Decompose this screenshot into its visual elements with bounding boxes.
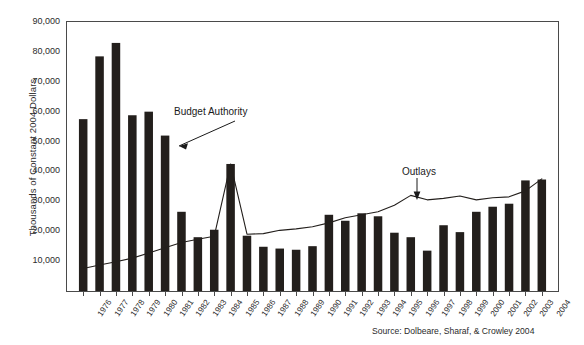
x-tick-1976: 1976 bbox=[96, 298, 114, 318]
x-tickmark-2002 bbox=[509, 292, 510, 296]
x-tickmark-2001 bbox=[493, 292, 494, 296]
bar-1988 bbox=[275, 249, 284, 291]
bar-2001 bbox=[488, 207, 497, 291]
bar-1981 bbox=[161, 136, 170, 291]
bar-1993 bbox=[357, 213, 366, 291]
bar-2003 bbox=[521, 180, 530, 291]
x-tick-2000: 2000 bbox=[489, 298, 507, 318]
x-tickmark-1980 bbox=[149, 292, 150, 296]
x-tickmark-1983 bbox=[198, 292, 199, 296]
x-tickmark-1992 bbox=[345, 292, 346, 296]
bar-1998 bbox=[439, 225, 448, 291]
x-tick-1995: 1995 bbox=[407, 298, 425, 318]
x-tickmark-1997 bbox=[427, 292, 428, 296]
x-tickmark-1977 bbox=[100, 292, 101, 296]
x-tickmark-1990 bbox=[313, 292, 314, 296]
bar-1999 bbox=[456, 232, 465, 291]
x-tick-1999: 1999 bbox=[473, 298, 491, 318]
chart-svg bbox=[67, 22, 558, 291]
x-tick-1977: 1977 bbox=[112, 298, 130, 318]
x-tick-2001: 2001 bbox=[505, 298, 523, 318]
y-tick-10000: 10,000 bbox=[14, 256, 60, 265]
plot-area bbox=[66, 21, 559, 292]
x-tickmark-2003 bbox=[525, 292, 526, 296]
x-tick-1986: 1986 bbox=[260, 298, 278, 318]
x-tick-1994: 1994 bbox=[391, 298, 409, 318]
y-tick-70000: 70,000 bbox=[14, 77, 60, 86]
x-tick-1993: 1993 bbox=[374, 298, 392, 318]
x-tickmark-1989 bbox=[296, 292, 297, 296]
x-tickmark-1987 bbox=[263, 292, 264, 296]
source-note: Source: Dolbeare, Sharaf, & Crowley 2004 bbox=[372, 326, 534, 336]
x-tick-1980: 1980 bbox=[161, 298, 179, 318]
x-tickmark-1999 bbox=[460, 292, 461, 296]
x-tick-1981: 1981 bbox=[178, 298, 196, 318]
x-tick-1987: 1987 bbox=[276, 298, 294, 318]
bar-1986 bbox=[243, 236, 252, 291]
x-tick-1996: 1996 bbox=[424, 298, 442, 318]
x-tickmark-1985 bbox=[231, 292, 232, 296]
annotation-budget-authority: Budget Authority bbox=[174, 106, 247, 117]
bar-1989 bbox=[292, 250, 301, 291]
x-tick-1998: 1998 bbox=[456, 298, 474, 318]
x-tick-1983: 1983 bbox=[211, 298, 229, 318]
x-tick-1984: 1984 bbox=[227, 298, 245, 318]
x-tick-2003: 2003 bbox=[538, 298, 556, 318]
y-tick-20000: 20,000 bbox=[14, 226, 60, 235]
bar-1983 bbox=[194, 237, 203, 291]
bar-1990 bbox=[308, 246, 317, 291]
y-tick-60000: 60,000 bbox=[14, 107, 60, 116]
y-tick-30000: 30,000 bbox=[14, 196, 60, 205]
x-tickmark-1993 bbox=[362, 292, 363, 296]
y-tick-40000: 40,000 bbox=[14, 166, 60, 175]
y-tick-50000: 50,000 bbox=[14, 137, 60, 146]
x-tick-1988: 1988 bbox=[293, 298, 311, 318]
bar-1984 bbox=[210, 230, 219, 291]
x-tickmark-1991 bbox=[329, 292, 330, 296]
x-tickmark-1988 bbox=[280, 292, 281, 296]
x-tickmark-1978 bbox=[116, 292, 117, 296]
x-tickmark-1984 bbox=[214, 292, 215, 296]
bar-1995 bbox=[390, 233, 399, 291]
chart-container: Thousands of Constant 2004 Dollars 90,00… bbox=[0, 0, 584, 345]
x-tickmark-2000 bbox=[476, 292, 477, 296]
x-tick-1989: 1989 bbox=[309, 298, 327, 318]
x-tickmark-1995 bbox=[394, 292, 395, 296]
bar-1994 bbox=[374, 216, 383, 291]
bar-1996 bbox=[407, 237, 416, 291]
x-tick-1991: 1991 bbox=[342, 298, 360, 318]
bar-1976 bbox=[79, 119, 88, 291]
bar-1985 bbox=[226, 164, 235, 291]
y-tick-80000: 80,000 bbox=[14, 47, 60, 56]
bar-2004 bbox=[538, 180, 547, 291]
x-tick-1979: 1979 bbox=[145, 298, 163, 318]
bar-1980 bbox=[144, 112, 153, 291]
annotation-outlays: Outlays bbox=[402, 166, 436, 177]
x-tickmark-1994 bbox=[378, 292, 379, 296]
bar-1978 bbox=[112, 43, 121, 291]
x-tick-2002: 2002 bbox=[522, 298, 540, 318]
x-tick-1990: 1990 bbox=[325, 298, 343, 318]
x-tick-1985: 1985 bbox=[243, 298, 261, 318]
bar-2000 bbox=[472, 212, 481, 291]
bar-1992 bbox=[341, 221, 350, 291]
x-tickmark-1976 bbox=[83, 292, 84, 296]
bar-1991 bbox=[325, 215, 334, 291]
x-tick-1982: 1982 bbox=[194, 298, 212, 318]
bar-1997 bbox=[423, 251, 432, 291]
x-tickmark-1982 bbox=[182, 292, 183, 296]
x-tick-1992: 1992 bbox=[358, 298, 376, 318]
x-tick-1997: 1997 bbox=[440, 298, 458, 318]
bar-2002 bbox=[505, 204, 514, 291]
x-tickmark-1986 bbox=[247, 292, 248, 296]
y-tick-90000: 90,000 bbox=[14, 17, 60, 26]
bars-group bbox=[79, 43, 546, 291]
bar-1987 bbox=[259, 247, 268, 291]
x-tickmark-1979 bbox=[132, 292, 133, 296]
x-tick-1978: 1978 bbox=[129, 298, 147, 318]
x-tickmark-1981 bbox=[165, 292, 166, 296]
bar-1979 bbox=[128, 115, 137, 291]
y-axis-tick-labels: 90,00080,00070,00060,00050,00040,00030,0… bbox=[14, 0, 60, 345]
x-tickmark-1998 bbox=[444, 292, 445, 296]
bar-1977 bbox=[95, 56, 104, 291]
